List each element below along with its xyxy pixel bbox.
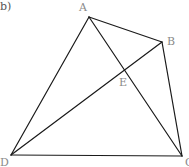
segments [11,17,182,156]
label-b: B [167,35,175,48]
label-e: E [119,76,127,89]
segment-bc [162,42,182,156]
quadrilateral-diagram: b) A B E D C [0,0,189,167]
segment-cd [11,155,182,156]
label-d: D [0,156,9,167]
segment-da [11,17,89,155]
label-a: A [78,1,88,14]
label-c: C [185,156,189,167]
figure-label: b) [0,0,11,13]
segment-ab [89,17,162,42]
diagonal-db [11,42,162,155]
